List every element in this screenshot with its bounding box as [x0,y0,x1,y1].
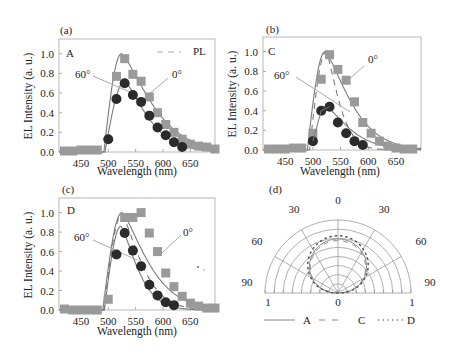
circle-marker-60deg [111,249,121,259]
circle-marker-60deg [136,261,146,271]
circle-marker-60deg [333,117,343,127]
circle-marker-60deg [358,140,368,150]
square-marker-0deg [161,120,170,129]
square-marker-0deg [145,229,154,238]
square-marker-0deg [60,147,69,156]
device-label: D [67,204,75,216]
square-marker-0deg [211,145,220,154]
square-marker-0deg [137,208,146,217]
square-marker-0deg [120,213,129,222]
y-tick-label: 0.4 [244,105,258,117]
x-axis-title: Wavelength (nm) [97,325,177,338]
polar-legend: A C D [264,314,415,326]
square-marker-0deg [383,142,392,151]
y-axis-title: EL Intensity (a. u.) [22,52,35,139]
x-axis-title: Wavelength (nm) [300,165,380,178]
pl-legend: PL [157,45,206,57]
plot-content [263,50,421,153]
angle-tick-30-right: 30 [379,203,391,215]
annotation-pointer [162,235,181,253]
square-marker-0deg [272,145,281,154]
device-label: C [268,45,275,57]
square-marker-0deg [120,54,129,63]
square-marker-0deg [358,118,367,127]
circle-marker-60deg [120,78,130,88]
x-tick-label: 650 [182,315,199,327]
square-marker-0deg [153,108,162,117]
angle-label-0: 0° [368,53,378,65]
angle-tick-60-right: 60 [416,235,428,247]
y-tick-label: 0.2 [40,126,54,138]
angle-tick-30-left: 30 [289,203,301,215]
square-marker-0deg [169,282,178,291]
square-marker-0deg [317,75,326,84]
angle-tick-90-left: 90 [242,276,254,288]
y-tick-label: 1.0 [40,48,54,60]
y-tick-label: 0.2 [244,124,258,136]
legend-label-d: D [407,314,415,326]
y-tick-label: 0.2 [40,285,54,297]
stray-marks [197,266,205,271]
angle-label-0: 0° [172,68,182,80]
angle-label-60: 60° [74,231,89,243]
panel-label: (d) [269,183,282,196]
square-marker-0deg [392,144,401,153]
circle-marker-60deg [144,280,154,290]
circle-marker-60deg [341,128,351,138]
square-marker-0deg [194,302,203,311]
pl-legend-label: PL [193,45,206,57]
panel-label: (c) [62,183,75,196]
panel-b-spectrum-chart: (b) C 60° 0° 450500550600650 0.00.20.40.… [226,23,421,178]
circle-marker-60deg [161,130,171,140]
square-marker-0deg [408,145,417,154]
y-tick-label: 0.4 [40,265,54,277]
square-marker-0deg [137,77,146,86]
circle-marker-60deg [177,142,187,152]
y-tick-label: 0.6 [40,246,54,258]
x-tick-label: 450 [277,155,294,167]
angle-tick-60-left: 60 [252,235,264,247]
square-marker-0deg [367,129,376,138]
x-axis-title: Wavelength (nm) [97,165,177,178]
x-tick-label: 650 [388,155,405,167]
square-marker-0deg [85,306,94,315]
square-marker-0deg [342,76,351,85]
square-marker-0deg [161,268,170,277]
polar-grid-spoke [338,257,401,294]
square-marker-0deg [76,306,85,315]
square-marker-0deg [112,72,121,81]
angle-tick-90-right: 90 [425,276,437,288]
square-marker-0deg [68,306,77,315]
figure: (a) A PL 60° 0° 450500550600650 0.00.20.… [0,0,460,358]
circle-marker-60deg [111,94,121,104]
circle-marker-60deg [128,246,138,256]
square-marker-0deg [145,92,154,101]
circle-marker-60deg [144,111,154,121]
square-marker-0deg [186,140,195,149]
square-marker-0deg [128,213,137,222]
square-marker-0deg [325,50,334,59]
radial-tick-left: 1 [265,296,271,308]
square-marker-0deg [178,292,187,301]
square-marker-0deg [76,146,85,155]
square-marker-0deg [68,147,77,156]
fit-curve [326,107,421,150]
polar-grid-spoke [275,257,338,294]
square-marker-0deg [60,305,69,314]
square-marker-0deg [281,145,290,154]
y-tick-label: 1.0 [244,46,258,58]
angle-label-0: 0° [183,226,193,238]
square-marker-0deg [128,70,137,79]
y-tick-label: 0.4 [40,107,54,119]
circle-marker-60deg [128,90,138,100]
square-marker-0deg [202,143,211,152]
circle-marker-60deg [120,228,130,238]
legend-label-a: A [303,314,311,326]
y-tick-label: 0.8 [40,67,54,79]
angle-label-60: 60° [274,69,289,81]
square-marker-0deg [169,128,178,137]
panel-c-spectrum-chart: (c) D 60° 0° 450500550600650 0.00.20.40.… [22,183,220,338]
circle-marker-60deg [136,97,146,107]
y-tick-label: 0.6 [40,87,54,99]
y-tick-label: 0.0 [244,144,258,156]
